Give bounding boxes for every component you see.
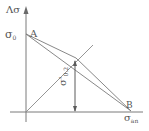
y-axis-label: Λσ [6,5,20,15]
dimension-arrow-bottom-icon [73,106,77,112]
line-a-b-upper [26,34,131,111]
x-axis-label: σan [124,113,138,124]
point-a-label: A [30,29,37,39]
dimension-arrow-top-icon [73,60,77,66]
y-axis-arrow-icon [24,6,29,14]
sigma0-label: σ0 [5,29,16,41]
point-b-label: B [126,101,133,110]
yield-stress-label: σ'0.2 [58,67,69,86]
